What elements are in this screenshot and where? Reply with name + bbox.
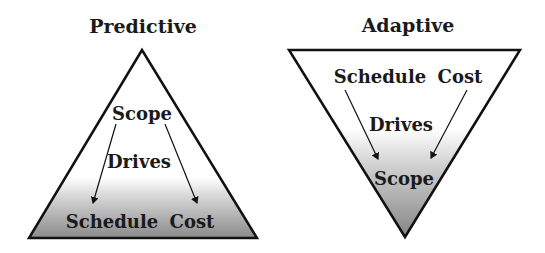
predictive-vs-adaptive-diagram: Predictive Scope Drives Schedule Cost Ad… [0, 0, 545, 253]
adaptive-drives-label: Drives [369, 114, 433, 135]
predictive-title: Predictive [89, 15, 197, 37]
adaptive-scope-label: Scope [374, 168, 434, 189]
adaptive-cost-label: Cost [438, 66, 483, 87]
predictive-cost-label: Cost [170, 211, 215, 232]
predictive-triangle-group: Predictive Scope Drives Schedule Cost [29, 15, 257, 238]
adaptive-schedule-label: Schedule [334, 66, 426, 87]
predictive-drives-label: Drives [107, 151, 171, 172]
predictive-schedule-label: Schedule [66, 211, 158, 232]
adaptive-triangle-group: Adaptive Schedule Cost Drives Scope [289, 14, 520, 237]
predictive-scope-label: Scope [112, 103, 172, 124]
predictive-triangle [29, 50, 257, 238]
adaptive-title: Adaptive [361, 14, 455, 36]
